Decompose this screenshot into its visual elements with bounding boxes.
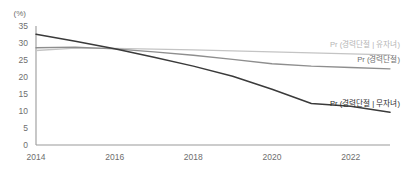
chart-canvas: (%) 05101520253035 20142016201820202022 …: [0, 0, 404, 176]
y-tick-label: 25: [19, 55, 29, 65]
x-tick-label: 2020: [263, 152, 282, 162]
series-line: [36, 48, 390, 55]
y-tick-label: 0: [23, 140, 28, 150]
x-axis-tick-labels: 20142016201820202022: [27, 152, 361, 162]
x-tick-label: 2014: [27, 152, 46, 162]
y-axis-unit-group: (%): [14, 9, 27, 18]
series-inline-labels-group: Pr (경력단절 | 유자녀)Pr (경력단절)Pr (경력단절 | 무자녀): [330, 39, 400, 108]
series-inline-label: Pr (경력단절 | 유자녀): [330, 39, 400, 49]
y-tick-label: 35: [19, 21, 29, 31]
x-tick-label: 2018: [184, 152, 203, 162]
y-tick-label: 15: [19, 89, 29, 99]
line-chart-figure: (%) 05101520253035 20142016201820202022 …: [0, 0, 404, 176]
series-inline-label: Pr (경력단절 | 무자녀): [330, 98, 400, 108]
series-inline-label: Pr (경력단절): [357, 54, 400, 64]
y-axis-tick-labels: 05101520253035: [19, 21, 29, 150]
y-tick-label: 20: [19, 72, 29, 82]
y-axis-unit-label: (%): [14, 9, 27, 18]
x-tick-label: 2016: [105, 152, 124, 162]
y-tick-label: 5: [23, 123, 28, 133]
y-tick-label: 10: [19, 106, 29, 116]
y-tick-label: 30: [19, 38, 29, 48]
x-tick-label: 2022: [341, 152, 360, 162]
